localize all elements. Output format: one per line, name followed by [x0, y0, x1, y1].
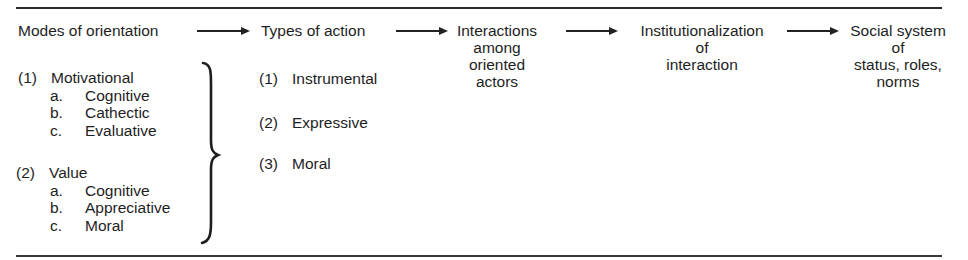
sub-label: Appreciative [85, 199, 170, 216]
item-label: Value [49, 164, 88, 181]
stage-label-line: Interactions [447, 22, 547, 39]
sub-letter: b. [50, 199, 85, 217]
stage-label-line: Social system [842, 22, 954, 39]
stage-label-line: status, roles, [842, 56, 954, 73]
item-number: (1) [18, 69, 51, 87]
types-list-item-moral: (3)Moral [259, 155, 331, 173]
sub-letter: a. [50, 87, 85, 105]
stage-types-of-action: Types of action [261, 22, 365, 39]
stage-label-line: Institutionalization [622, 22, 782, 39]
stage-interactions: Interactions among oriented actors [447, 22, 547, 90]
stage-label-line: of [842, 39, 954, 56]
item-number: (3) [259, 155, 292, 173]
types-list-item-expressive: (2)Expressive [259, 114, 368, 132]
arrow-interactions-to-institutionalization [566, 30, 616, 32]
item-number: (2) [16, 164, 49, 182]
types-list-item-instrumental: (1)Instrumental [259, 70, 377, 88]
sub-letter: b. [50, 104, 85, 122]
item-number: (1) [259, 70, 292, 88]
stage-social-system: Social system of status, roles, norms [842, 22, 954, 90]
stage-label: Types of action [261, 22, 365, 39]
modes-list-motivational: (1)Motivational a.Cognitive b.Cathectic … [18, 69, 157, 139]
arrow-modes-to-types [197, 30, 248, 32]
arrow-institutionalization-to-social-system [787, 30, 837, 32]
item-label: Motivational [51, 69, 134, 86]
item-label: Moral [292, 155, 331, 172]
stage-label-line: interaction [622, 56, 782, 73]
stage-label-line: actors [447, 73, 547, 90]
top-rule [16, 7, 942, 9]
item-label: Instrumental [292, 70, 377, 87]
stage-label-line: norms [842, 73, 954, 90]
sub-label: Cognitive [85, 182, 150, 199]
sub-label: Moral [85, 217, 124, 234]
bottom-rule [16, 255, 942, 257]
sub-letter: c. [50, 217, 85, 235]
right-curly-brace-icon [198, 60, 222, 246]
item-number: (2) [259, 114, 292, 132]
modes-list-value: (2)Value a.Cognitive b.Appreciative c.Mo… [16, 164, 170, 234]
sub-label: Evaluative [85, 122, 157, 139]
arrow-types-to-interactions [396, 30, 446, 32]
stage-label: Modes of orientation [18, 22, 158, 39]
sub-label: Cognitive [85, 87, 150, 104]
stage-label-line: oriented [447, 56, 547, 73]
stage-modes-of-orientation: Modes of orientation [18, 22, 158, 39]
item-label: Expressive [292, 114, 368, 131]
sub-label: Cathectic [85, 104, 150, 121]
stage-institutionalization: Institutionalization of interaction [622, 22, 782, 73]
sub-letter: a. [50, 182, 85, 200]
stage-label-line: among [447, 39, 547, 56]
sub-letter: c. [50, 122, 85, 140]
stage-label-line: of [622, 39, 782, 56]
